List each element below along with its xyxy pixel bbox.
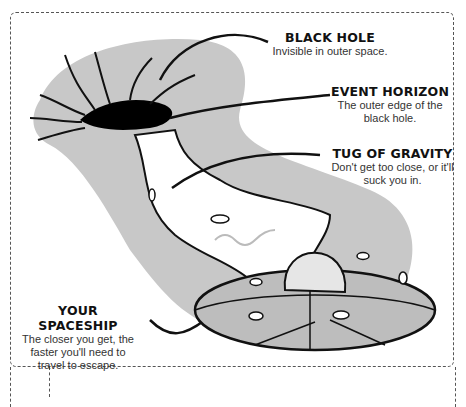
label-title: TUG OF GRAVITY xyxy=(330,146,455,161)
label-title: EVENT HORIZON xyxy=(330,84,450,99)
label-description: Invisible in outer space. xyxy=(265,45,395,58)
label-title: BLACK HOLE xyxy=(265,30,395,45)
label-your-spaceship: YOUR SPACESHIP The closer you get, the f… xyxy=(18,303,138,373)
floating-debris xyxy=(149,189,155,201)
floating-debris xyxy=(211,215,229,223)
label-tug-of-gravity: TUG OF GRAVITY Don't get too close, or i… xyxy=(330,146,455,187)
label-event-horizon: EVENT HORIZON The outer edge of the blac… xyxy=(330,84,450,125)
label-description: The outer edge of the black hole. xyxy=(330,99,450,125)
label-description: The closer you get, the faster you'll ne… xyxy=(18,333,138,373)
label-title: YOUR SPACESHIP xyxy=(18,303,138,333)
label-black-hole: BLACK HOLE Invisible in outer space. xyxy=(265,30,395,58)
label-description: Don't get too close, or it'll suck you i… xyxy=(330,161,455,187)
